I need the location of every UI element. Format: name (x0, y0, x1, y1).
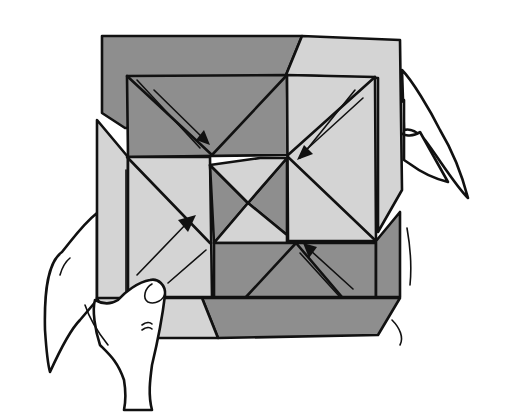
top-inner-square (127, 75, 288, 157)
left-flap (97, 120, 128, 300)
center-left-panel (128, 157, 212, 297)
origami-diagram (0, 0, 514, 420)
bottom-flap (202, 298, 400, 338)
left-hand-back (45, 213, 97, 372)
right-hand (392, 70, 468, 345)
